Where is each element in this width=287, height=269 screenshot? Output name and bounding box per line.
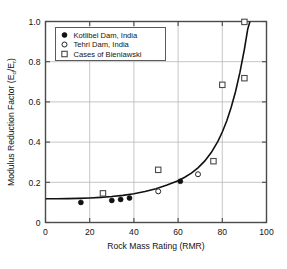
legend-marker-open-square bbox=[62, 51, 67, 56]
data-point bbox=[78, 200, 83, 205]
legend-marker-open-circle bbox=[62, 42, 67, 47]
legend-label: Tehri Dam, India bbox=[74, 40, 130, 49]
x-tick-label: 80 bbox=[218, 227, 228, 237]
legend-label: Cases of Bieniawski bbox=[74, 50, 142, 59]
y-axis-title: Modulus Reduction Factor (Ed/Er) bbox=[6, 58, 17, 186]
figure-container: 02040608010000.20.40.60.81.0Rock Mass Ra… bbox=[0, 0, 287, 269]
data-point bbox=[156, 189, 161, 194]
data-point bbox=[242, 19, 247, 24]
data-point bbox=[127, 195, 132, 200]
chart-svg: 02040608010000.20.40.60.81.0Rock Mass Ra… bbox=[0, 0, 287, 269]
x-axis-title: Rock Mass Rating (RMR) bbox=[107, 241, 205, 251]
data-point bbox=[109, 198, 114, 203]
y-tick-label: 0.4 bbox=[29, 137, 41, 147]
y-tick-label: 0.8 bbox=[29, 57, 41, 67]
legend-label: Kotlibel Dam, India bbox=[74, 31, 139, 40]
x-tick-label: 40 bbox=[129, 227, 139, 237]
data-point bbox=[100, 191, 105, 196]
data-point bbox=[211, 158, 216, 163]
legend-marker-filled-circle bbox=[62, 33, 67, 38]
data-point bbox=[242, 75, 247, 80]
data-point bbox=[178, 179, 183, 184]
y-tick-label: 0.2 bbox=[29, 178, 41, 188]
x-tick-label: 20 bbox=[85, 227, 95, 237]
data-point bbox=[118, 197, 123, 202]
x-tick-label: 60 bbox=[173, 227, 183, 237]
x-tick-label: 0 bbox=[43, 227, 48, 237]
y-tick-label: 1.0 bbox=[29, 17, 41, 27]
data-point bbox=[156, 167, 161, 172]
data-point bbox=[195, 172, 200, 177]
y-tick-label: 0.6 bbox=[29, 97, 41, 107]
y-tick-label: 0 bbox=[36, 218, 41, 228]
data-point bbox=[220, 82, 225, 87]
x-tick-label: 100 bbox=[259, 227, 274, 237]
